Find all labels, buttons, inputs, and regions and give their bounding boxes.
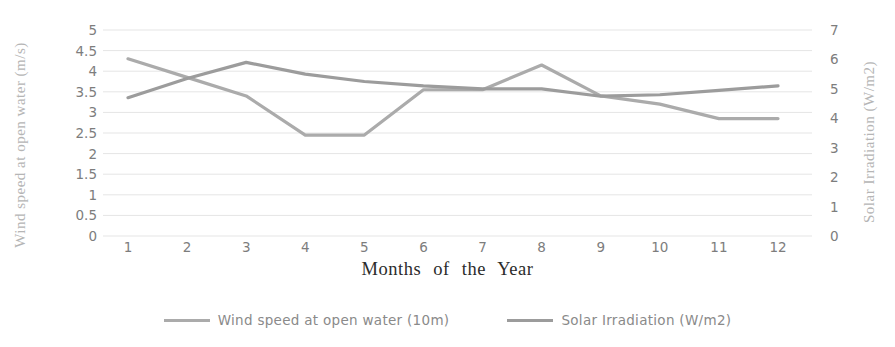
x-tick-label: 12 [769,239,786,255]
x-tick-label: 4 [301,239,310,255]
wind-series-line [128,59,778,135]
x-tick-label: 9 [596,239,605,255]
x-tick-label: 5 [360,239,369,255]
x-tick-label: 7 [478,239,487,255]
solar-series-line [128,62,778,97]
left-tick-label: 4 [88,63,97,79]
series-lines [128,59,778,135]
right-tick-label: 3 [830,140,839,156]
right-axis-title: Solar Irradiation (W/m2) [861,2,881,282]
left-tick-label: 2.5 [76,125,97,141]
x-tick-label: 8 [537,239,546,255]
x-axis-title: Months of the Year [0,259,895,280]
left-tick-label: 1 [88,187,97,203]
legend-entry-wind: Wind speed at open water (10m) [164,312,450,328]
left-tick-label: 0 [88,228,97,244]
right-axis-ticks: 01234567 [830,22,839,244]
right-tick-label: 0 [830,228,839,244]
legend-entry-solar: Solar Irradiation (W/m2) [507,312,731,328]
right-tick-label: 7 [830,22,839,38]
left-tick-label: 1.5 [76,166,97,182]
chart-svg: 00.511.522.533.544.55 01234567 123456789… [0,0,895,347]
x-tick-label: 3 [242,239,251,255]
right-tick-label: 6 [830,51,839,67]
x-axis-ticks: 123456789101112 [124,239,787,255]
right-tick-label: 1 [830,199,839,215]
x-tick-label: 10 [651,239,668,255]
left-axis-title: Wind speed at open water (m/s) [12,5,32,285]
legend-label-wind: Wind speed at open water (10m) [218,312,450,328]
left-tick-label: 3.5 [76,84,97,100]
legend: Wind speed at open water (10m) Solar Irr… [0,312,895,328]
x-tick-label: 2 [183,239,192,255]
left-tick-label: 4.5 [76,43,97,59]
left-tick-label: 2 [88,146,97,162]
left-tick-label: 5 [88,22,97,38]
right-tick-label: 5 [830,81,839,97]
gridlines [103,30,812,236]
solar-line-swatch [507,319,553,322]
legend-label-solar: Solar Irradiation (W/m2) [561,312,731,328]
right-tick-label: 2 [830,169,839,185]
x-tick-label: 1 [124,239,133,255]
right-tick-label: 4 [830,110,839,126]
chart-figure: 00.511.522.533.544.55 01234567 123456789… [0,0,895,347]
left-axis-ticks: 00.511.522.533.544.55 [76,22,97,244]
left-tick-label: 3 [88,104,97,120]
x-tick-label: 11 [710,239,727,255]
wind-line-swatch [164,319,210,322]
x-tick-label: 6 [419,239,428,255]
left-tick-label: 0.5 [76,207,97,223]
